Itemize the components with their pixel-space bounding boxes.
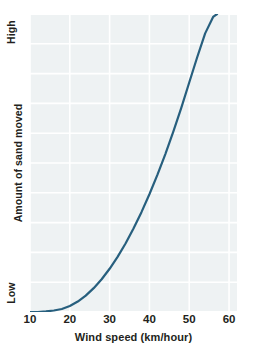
x-axis-tick-30: 30 bbox=[93, 313, 127, 325]
x-axis-tick-60: 60 bbox=[212, 313, 246, 325]
plot-svg bbox=[30, 14, 237, 312]
x-axis-ticks: 102030405060 bbox=[30, 313, 237, 329]
x-axis-tick-10: 10 bbox=[13, 313, 47, 325]
horizontal-grid-lines bbox=[30, 14, 237, 312]
x-axis-tick-40: 40 bbox=[132, 313, 166, 325]
y-axis-title: Amount of sand moved bbox=[12, 103, 24, 223]
y-axis-tick-high: High bbox=[5, 12, 17, 52]
plot-area bbox=[30, 14, 237, 312]
chart-figure: High Low Amount of sand moved 1020304050… bbox=[0, 0, 267, 353]
x-axis-tick-20: 20 bbox=[53, 313, 87, 325]
y-axis-tick-low: Low bbox=[5, 274, 17, 312]
x-axis-title: Wind speed (km/hour) bbox=[30, 331, 237, 343]
x-axis-tick-50: 50 bbox=[172, 313, 206, 325]
